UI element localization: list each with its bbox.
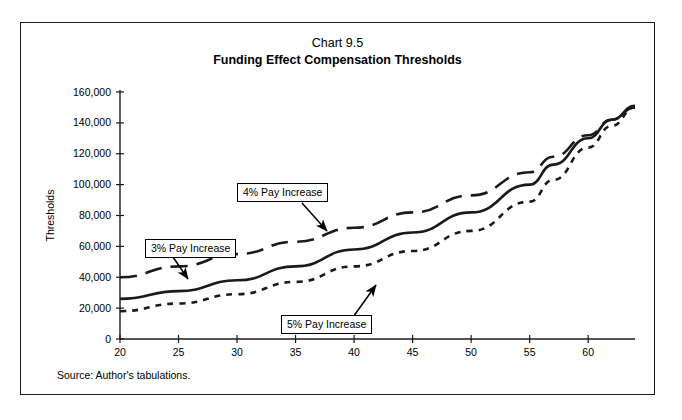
svg-text:160,000: 160,000 (73, 86, 111, 98)
line-chart-plot: 020,00040,00060,00080,000100,000120,0001… (21, 23, 653, 393)
svg-text:60: 60 (582, 346, 594, 358)
svg-text:0: 0 (105, 333, 111, 345)
callout-5-percent: 5% Pay Increase (281, 315, 372, 334)
source-note: Source: Author's tabulations. (57, 369, 190, 381)
figure-frame: Chart 9.5 Funding Effect Compensation Th… (20, 22, 655, 395)
svg-text:20: 20 (114, 346, 126, 358)
callout-3-percent-label: 3% Pay Increase (151, 242, 230, 254)
svg-text:40,000: 40,000 (79, 271, 111, 283)
callout-3-percent: 3% Pay Increase (145, 239, 236, 258)
svg-text:50: 50 (465, 346, 477, 358)
callout-5-percent-label: 5% Pay Increase (287, 318, 366, 330)
chart-series-group (120, 106, 635, 311)
callout-4-percent: 4% Pay Increase (237, 183, 328, 202)
callout-4-percent-label: 4% Pay Increase (243, 186, 322, 198)
svg-text:60,000: 60,000 (79, 240, 111, 252)
svg-text:80,000: 80,000 (79, 209, 111, 221)
svg-text:25: 25 (173, 346, 185, 358)
svg-text:120,000: 120,000 (73, 147, 111, 159)
svg-text:100,000: 100,000 (73, 178, 111, 190)
svg-text:140,000: 140,000 (73, 116, 111, 128)
svg-text:20,000: 20,000 (79, 302, 111, 314)
svg-text:40: 40 (348, 346, 360, 358)
y-axis-title: Thresholds (44, 190, 56, 242)
svg-text:30: 30 (231, 346, 243, 358)
svg-text:55: 55 (524, 346, 536, 358)
svg-text:35: 35 (290, 346, 302, 358)
svg-text:45: 45 (407, 346, 419, 358)
